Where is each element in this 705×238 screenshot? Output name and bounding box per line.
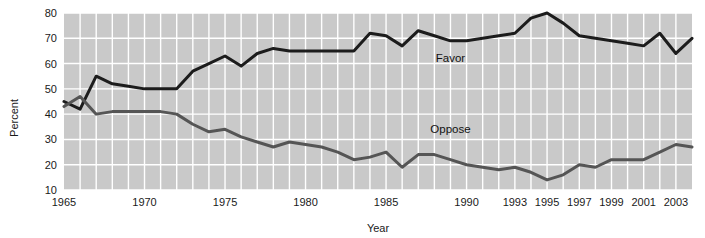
annotation-favor: Favor: [436, 52, 466, 64]
x-tick-label: 1997: [567, 196, 591, 208]
x-tick-label: 1970: [132, 196, 156, 208]
y-tick-label: 80: [45, 7, 57, 19]
x-tick-label: 1980: [293, 196, 317, 208]
annotation-oppose: Oppose: [430, 123, 470, 135]
chart-container: 1020304050607080 19651970197519801985199…: [0, 0, 705, 238]
x-tick-label: 2001: [631, 196, 655, 208]
y-axis-title: Percent: [8, 99, 20, 137]
x-tick-label: 1990: [454, 196, 478, 208]
x-tick-label: 1965: [52, 196, 76, 208]
x-tick-label: 2003: [664, 196, 688, 208]
line-chart: 1020304050607080 19651970197519801985199…: [0, 0, 705, 238]
x-tick-label: 1975: [213, 196, 237, 208]
y-tick-label: 40: [45, 108, 57, 120]
x-tick-label: 1985: [374, 196, 398, 208]
y-tick-label: 70: [45, 32, 57, 44]
y-tick-label: 60: [45, 58, 57, 70]
x-tick-label: 1999: [599, 196, 623, 208]
y-tick-label: 30: [45, 133, 57, 145]
x-axis-tick-labels: 1965197019751980198519901993199519971999…: [52, 196, 688, 208]
x-tick-label: 1995: [535, 196, 559, 208]
y-axis-tick-labels: 1020304050607080: [45, 7, 57, 196]
x-axis-title: Year: [367, 222, 390, 234]
y-tick-label: 50: [45, 83, 57, 95]
y-tick-label: 10: [45, 184, 57, 196]
x-tick-label: 1993: [503, 196, 527, 208]
y-tick-label: 20: [45, 159, 57, 171]
